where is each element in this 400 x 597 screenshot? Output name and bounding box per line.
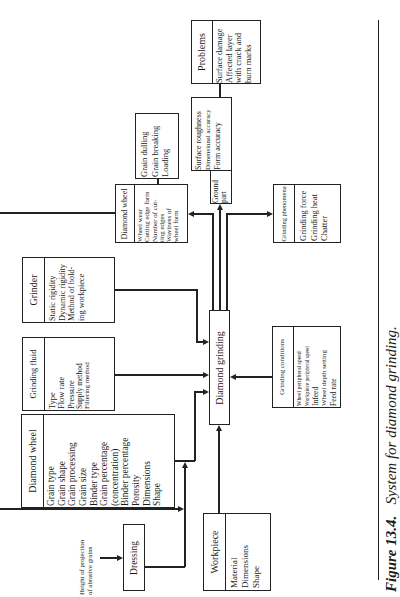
list-item: Surface roughness: [194, 109, 204, 170]
grinding-conditions-box: Grinding conditions Wheel peripheral spe…: [272, 326, 341, 408]
workpiece-list: Material Dimensions Shape: [229, 545, 261, 588]
arrow-icon: [117, 555, 123, 561]
grinder-header: Grinder: [23, 258, 45, 322]
list-item: Dimensions: [142, 438, 153, 506]
figure-label: Figure 13.4.: [383, 516, 399, 592]
diamond-wheel-list: Grain type Grain shape Grain processing …: [46, 438, 163, 506]
figure-caption: Figure 13.4. System for diamond grinding…: [383, 326, 400, 592]
list-item: Grain percentage: [99, 438, 110, 506]
list-item: Filtering method: [84, 362, 92, 409]
connector: [115, 289, 197, 291]
list-item: Waviness of: [165, 191, 172, 242]
ground-part-box: Ground part: [210, 170, 232, 204]
grinding-phenomena-box: Grinding phenomena Grinding force Grindi…: [273, 184, 341, 243]
grinder-list: Static rigidity Dynamic rigidity Method …: [48, 264, 86, 321]
list-item: Wheel wear: [136, 191, 143, 242]
note-line: Height of projection: [78, 540, 86, 595]
projection-note: Height of projection of abrasive grains: [78, 540, 94, 595]
grinding-phenomena-title: Grinding phenomena: [280, 186, 287, 241]
arrow-icon: [203, 389, 209, 395]
list-item: Grain processing: [67, 438, 78, 506]
list-item: Static rigidity: [48, 264, 58, 321]
grinder-title: Grinder: [28, 274, 39, 305]
arrow-icon: [230, 374, 236, 380]
diamond-grinding-box: Diamond grinding: [209, 310, 230, 425]
list-item: Binder type: [89, 438, 100, 506]
diamond-wheel-state-box: Diamond wheel Wheel wear Cutting edge fo…: [115, 184, 188, 243]
list-item: Material: [229, 545, 240, 588]
grinding-conditions-list: Wheel peripheral speed Workpiece periphe…: [296, 346, 339, 406]
connector: [236, 376, 272, 378]
page-rule: [378, 20, 379, 580]
ground-part-results-box: Surface roughness Dimensional accuracy F…: [191, 97, 232, 171]
problems-title: Problems: [197, 33, 208, 71]
list-item: Grinding force: [298, 191, 309, 241]
connector: [218, 430, 220, 514]
grinding-conditions-header: Grinding conditions: [273, 327, 294, 407]
problems-header: Problems: [192, 21, 213, 83]
ground-part-title: Ground part: [212, 180, 228, 203]
list-item: Grain type: [46, 438, 57, 506]
workpiece-box: Workpiece Material Dimensions Shape: [203, 513, 271, 591]
arrow-icon: [217, 204, 223, 210]
diamond-wheel-title: Diamond wheel: [27, 429, 38, 493]
grinding-fluid-list: Type Flow rate Pressure Supply method Fi…: [48, 362, 92, 409]
list-item: Porosity: [131, 438, 142, 506]
arrow-icon: [178, 506, 184, 512]
connector: [226, 213, 268, 215]
list-item: Feed rate: [329, 346, 339, 406]
diamond-wheel-box: Diamond wheel Grain type Grain shape Gra…: [21, 414, 175, 508]
list-item: Form accuracy: [213, 109, 223, 170]
connector: [196, 289, 198, 342]
list-item: Grain dulling: [139, 126, 150, 177]
list-item: Wheel peripheral speed: [296, 346, 304, 406]
list-item: Binder percentage: [120, 438, 131, 506]
list-item: wheel form: [172, 191, 179, 242]
diamond-grinding-title: Diamond grinding: [214, 331, 225, 405]
list-item: Grain breaking: [150, 126, 161, 177]
grinding-conditions-title: Grinding conditions: [279, 339, 287, 395]
list-item: Grain shape: [57, 438, 68, 506]
connector: [145, 566, 185, 568]
diamond-wheel-state-list: Wheel wear Cutting edge form Number of c…: [136, 191, 180, 242]
arrow-icon: [188, 211, 194, 217]
ground-part-list: Surface roughness Dimensional accuracy F…: [194, 109, 224, 170]
note-line: of abrasive grains: [86, 540, 94, 595]
list-item: Infeed: [311, 346, 321, 406]
list-item: Chatter: [319, 191, 330, 241]
list-item: Grinding heat: [309, 191, 320, 241]
list-item: Loading: [160, 126, 171, 177]
connector: [219, 207, 221, 311]
connector: [0, 212, 115, 214]
list-item: Dimensions: [240, 545, 251, 588]
connector: [194, 391, 196, 461]
connector: [184, 468, 186, 567]
problems-box: Problems Surface damage Affected layer w…: [191, 20, 261, 84]
list-item: burn marks: [244, 28, 254, 83]
list-item: Dimensional accuracy: [204, 109, 213, 170]
list-item: ing workpiece: [77, 264, 87, 321]
wheel-problems-box: Grain dulling Grain breaking Loading: [135, 113, 179, 179]
grinding-fluid-box: Grinding fluid Type Flow rate Pressure S…: [22, 337, 115, 411]
connector: [226, 214, 228, 311]
grinder-box: Grinder Static rigidity Dynamic rigidity…: [22, 257, 115, 323]
connector: [115, 374, 204, 376]
connector: [0, 508, 178, 510]
grinding-fluid-title: Grinding fluid: [29, 350, 38, 399]
diamond-wheel-state-header: Diamond wheel: [116, 185, 135, 242]
wheel-problems-list: Grain dulling Grain breaking Loading: [139, 126, 171, 177]
connector: [100, 557, 118, 559]
list-item: ting edges: [158, 191, 165, 242]
list-item: Shape: [152, 438, 163, 506]
workpiece-header: Workpiece: [204, 514, 226, 590]
list-item: Workpiece peripheral speed: [304, 346, 311, 406]
connector: [212, 213, 214, 311]
grinding-fluid-header: Grinding fluid: [23, 338, 45, 410]
list-item: Shape: [251, 545, 262, 588]
list-item: Number of cut-: [151, 191, 158, 242]
arrow-icon: [216, 425, 222, 431]
figure-caption-text: System for diamond grinding.: [383, 326, 399, 504]
workpiece-title: Workpiece: [209, 530, 220, 573]
dressing-title: Dressing: [129, 541, 139, 575]
connector: [219, 83, 221, 97]
